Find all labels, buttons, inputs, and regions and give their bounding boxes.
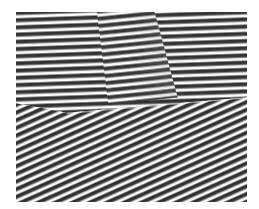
stripe-pattern-image bbox=[16, 12, 247, 202]
